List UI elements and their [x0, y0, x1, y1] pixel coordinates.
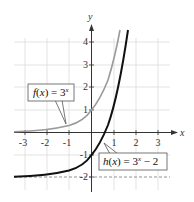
x-axis-label: x [179, 127, 185, 138]
x-tick-labels: -3 -2 -1 1 2 3 [19, 137, 161, 148]
svg-text:1: 1 [112, 137, 117, 148]
graph: x y -3 -2 -1 1 2 3 -2 -1 1 2 3 4 [0, 0, 194, 202]
callout-f: f(x) = 3x [28, 84, 74, 124]
svg-text:f(x) = 3x: f(x) = 3x [33, 86, 70, 99]
svg-text:4: 4 [83, 36, 88, 47]
svg-text:-2: -2 [80, 171, 88, 182]
svg-text:-1: -1 [80, 149, 88, 160]
svg-text:-2: -2 [41, 137, 49, 148]
svg-text:1: 1 [83, 104, 88, 115]
svg-text:2: 2 [83, 81, 88, 92]
y-axis-label: y [87, 11, 93, 22]
svg-text:3: 3 [83, 59, 88, 70]
svg-text:3: 3 [156, 137, 161, 148]
svg-text:h(x) = 3x − 2: h(x) = 3x − 2 [103, 155, 158, 168]
svg-text:-1: -1 [63, 137, 71, 148]
y-axis-arrow-icon [89, 24, 94, 31]
svg-text:2: 2 [134, 137, 139, 148]
svg-text:-3: -3 [19, 137, 27, 148]
x-axis-arrow-icon [171, 130, 178, 135]
curve-f [14, 30, 120, 132]
y-axis: y [87, 11, 94, 192]
